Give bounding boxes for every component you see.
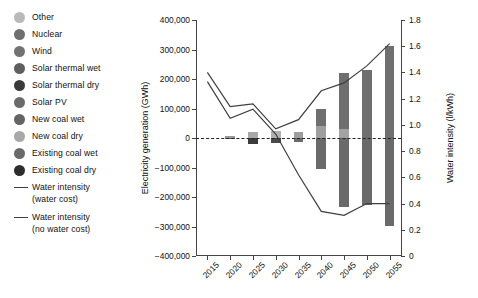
legend-item-label: Other [32,12,54,23]
line-series-svg [196,20,401,256]
plot-area: 400,000300,000200,000100,0000−100,000−20… [196,20,401,256]
x-axis-tick-label: 2045 [338,260,358,280]
x-axis-tick-label: 2020 [224,260,244,280]
y-axis-left-tick-label: 100,000 [160,104,190,114]
legend-item-label: Solar thermal dry [32,80,99,91]
legend-item-label: New coal wet [32,114,84,125]
y-axis-right-line [401,20,402,256]
line-series-group [196,20,401,256]
legend-item-label: Existing coal dry [32,165,96,176]
y-axis-left-tick-label: 300,000 [160,45,190,55]
y-axis-left-tick-label: −100,000 [155,163,190,173]
y-axis-title-right: Water intensity (l/kWh) [443,20,457,256]
legend-item-label: Solar thermal wet [32,63,101,74]
legend-item-label: Wind [32,46,52,57]
y-axis-left-tick-label: −200,000 [155,192,190,202]
y-axis-left-tick-label: −300,000 [155,222,190,232]
y-axis-title-right-text: Water intensity (l/kWh) [445,93,455,183]
legend-item[interactable]: Wind [14,46,142,58]
x-axis-tick-label: 2030 [269,260,289,280]
legend-item[interactable]: New coal dry [14,131,142,143]
legend-swatch [14,114,25,125]
y-axis-right-tick [401,46,405,47]
y-axis-right-tick [401,230,405,231]
legend-swatch [14,131,25,142]
x-axis-tick [230,256,231,260]
chart-legend: OtherNuclearWindSolar thermal wetSolar t… [14,12,142,242]
y-axis-right-tick-label: 0.2 [409,225,421,235]
y-axis-left-tick-label: 0 [185,133,190,143]
x-axis-tick [344,256,345,260]
x-axis-tick [299,256,300,260]
legend-swatch [14,63,25,74]
x-axis-tick-label: 2050 [360,260,380,280]
y-axis-left-tick-label: 400,000 [160,15,190,25]
y-axis-right-tick-label: 0.6 [409,172,421,182]
x-axis-tick-label: 2035 [292,260,312,280]
legend-swatch [14,97,25,108]
y-axis-right-tick-label: 0 [409,251,414,261]
legend-item[interactable]: Solar PV [14,97,142,109]
x-axis-tick-label: 2040 [315,260,335,280]
x-axis-tick [276,256,277,260]
legend-item-label: Water intensity(no water cost) [32,212,128,235]
y-axis-right-tick-label: 0.8 [409,146,421,156]
y-axis-right-tick-label: 1.6 [409,41,421,51]
y-axis-right-tick-label: 1.4 [409,67,421,77]
x-axis-tick-label: 2015 [201,260,221,280]
x-axis-tick [321,256,322,260]
x-axis-tick [253,256,254,260]
legend-swatch [14,148,25,159]
y-axis-right-tick-label: 1.8 [409,15,421,25]
y-axis-right-tick [401,177,405,178]
legend-swatch [14,29,25,40]
line-series [207,82,389,216]
legend-item[interactable]: New coal wet [14,114,142,126]
y-axis-right-tick [401,20,405,21]
legend-line-marker [14,217,28,218]
y-axis-left-tick-label: −400,000 [155,251,190,261]
legend-item[interactable]: Existing coal dry [14,165,142,177]
legend-swatch [14,80,25,91]
y-axis-right-tick-label: 0.4 [409,199,421,209]
legend-item[interactable]: Water intensity(no water cost) [14,212,142,236]
y-axis-left-tick-label: 200,000 [160,74,190,84]
legend-item[interactable]: Solar thermal wet [14,63,142,75]
y-axis-right-tick [401,204,405,205]
legend-item-label: Existing coal wet [32,148,98,159]
y-axis-right-tick [401,151,405,152]
legend-item-label: New coal dry [32,131,83,142]
legend-item[interactable]: Nuclear [14,29,142,41]
y-axis-right-tick [401,99,405,100]
y-axis-left-tick [192,256,196,257]
legend-swatch [14,12,25,23]
y-axis-title-left: Electricity generation (GWh) [138,20,152,256]
legend-item-label: Nuclear [32,29,62,40]
legend-swatch [14,46,25,57]
y-axis-right-tick [401,125,405,126]
chart-figure: OtherNuclearWindSolar thermal wetSolar t… [0,0,478,298]
legend-item-label: Water intensity(water cost) [32,182,128,205]
legend-item[interactable]: Solar thermal dry [14,80,142,92]
y-axis-right-tick [401,72,405,73]
y-axis-right-tick-label: 1.0 [409,120,421,130]
y-axis-title-left-text: Electricity generation (GWh) [140,82,150,195]
legend-item-label: Solar PV [32,97,67,108]
legend-line-marker [14,187,28,188]
x-axis-tick [390,256,391,260]
y-axis-right-tick-label: 1.2 [409,94,421,104]
x-axis-tick-label: 2025 [247,260,267,280]
x-axis-tick-label: 2055 [383,260,403,280]
y-axis-right-tick [401,256,405,257]
legend-swatch [14,165,25,176]
legend-item[interactable]: Existing coal wet [14,148,142,160]
x-axis-tick [207,256,208,260]
x-axis-tick [367,256,368,260]
legend-item[interactable]: Water intensity(water cost) [14,182,142,206]
legend-item[interactable]: Other [14,12,142,24]
